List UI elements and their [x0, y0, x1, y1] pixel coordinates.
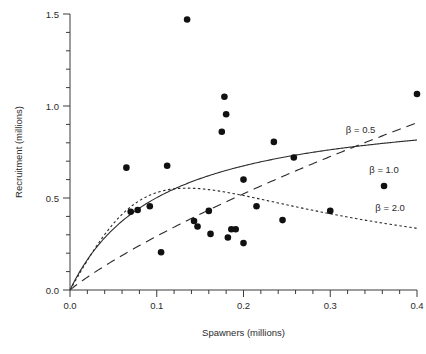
data-point: [134, 207, 141, 214]
data-point: [184, 16, 191, 23]
curve-dotted: [70, 188, 417, 290]
data-point: [207, 231, 214, 238]
data-point: [123, 164, 130, 171]
axes-layer: [63, 14, 417, 297]
x-tick-label: 0.0: [63, 300, 76, 311]
series-annotation: β = 1.0: [369, 164, 399, 175]
curves-layer: [70, 123, 417, 290]
data-point: [240, 240, 247, 247]
data-point: [232, 226, 239, 233]
y-tick-label: 1.5: [46, 9, 59, 20]
series-annotation: β = 0.5: [346, 124, 376, 135]
figure-container: 0.00.51.01.50.00.10.20.30.4Spawners (mil…: [0, 0, 426, 354]
data-point: [381, 183, 388, 190]
y-tick-label: 0.0: [46, 285, 59, 296]
x-tick-label: 0.2: [237, 300, 250, 311]
x-axis-title: Spawners (millions): [202, 327, 285, 338]
data-point: [194, 223, 201, 230]
data-point: [271, 139, 278, 146]
data-point: [221, 94, 228, 101]
data-point: [147, 203, 154, 210]
data-point: [164, 163, 171, 170]
data-point: [291, 154, 298, 161]
data-point: [414, 91, 421, 98]
data-point: [279, 217, 286, 224]
data-point: [191, 218, 198, 225]
x-tick-label: 0.3: [324, 300, 337, 311]
x-tick-label: 0.1: [150, 300, 163, 311]
y-axis-title: Recruitment (millions): [13, 106, 24, 198]
data-point: [327, 208, 334, 215]
data-point: [225, 234, 232, 241]
data-point: [206, 208, 213, 215]
curve-dashed: [70, 123, 417, 290]
scatter-plot: 0.00.51.01.50.00.10.20.30.4Spawners (mil…: [0, 0, 426, 354]
data-point: [240, 176, 247, 183]
points-layer: [123, 16, 420, 255]
data-point: [127, 209, 134, 216]
data-point: [253, 203, 260, 210]
data-point: [158, 249, 165, 256]
y-tick-label: 0.5: [46, 193, 59, 204]
series-annotation: β = 2.0: [375, 202, 405, 213]
data-point: [219, 128, 226, 135]
x-tick-label: 0.4: [410, 300, 423, 311]
y-tick-label: 1.0: [46, 101, 59, 112]
data-point: [223, 111, 230, 118]
